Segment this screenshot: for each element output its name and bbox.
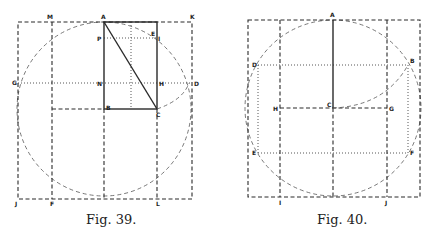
fig39-label-G: G bbox=[12, 79, 17, 86]
fig40-label-F: F bbox=[410, 149, 414, 156]
fig39-label-E: E bbox=[151, 30, 155, 37]
fig39-label-F: F bbox=[50, 200, 54, 207]
fig39-label-K: K bbox=[190, 13, 195, 20]
fig40-label-E: E bbox=[252, 149, 256, 156]
fig40-label-A: A bbox=[330, 11, 335, 18]
fig40-label-D: D bbox=[252, 61, 257, 68]
fig40-label-I: I bbox=[279, 199, 281, 206]
fig39-label-B: B bbox=[106, 104, 111, 111]
fig40-label-G: G bbox=[389, 105, 394, 112]
fig40-arc-CB bbox=[333, 65, 408, 108]
fig39-caption: Fig. 39. bbox=[86, 212, 136, 227]
diagram-canvas: A M K P E I G N H D B C J F L Fig. 39. A… bbox=[0, 0, 426, 234]
fig40-label-C: C bbox=[327, 101, 332, 108]
fig39-label-L: L bbox=[156, 200, 160, 207]
figure-39: A M K P E I G N H D B C J F L Fig. 39. bbox=[12, 13, 199, 227]
fig39-label-C: C bbox=[156, 111, 161, 118]
fig40-label-H: H bbox=[273, 105, 278, 112]
fig40-caption: Fig. 40. bbox=[317, 212, 367, 227]
fig39-label-A: A bbox=[101, 13, 106, 20]
fig39-label-I: I bbox=[158, 35, 160, 42]
fig39-outer-square bbox=[18, 22, 192, 199]
figure-40: A D B H C G E F I J Fig. 40. bbox=[245, 11, 421, 227]
fig39-label-J: J bbox=[14, 200, 17, 208]
fig39-label-H: H bbox=[159, 80, 164, 87]
fig40-label-J: J bbox=[384, 199, 387, 207]
fig39-label-D: D bbox=[194, 80, 199, 87]
fig39-label-P: P bbox=[97, 35, 102, 42]
fig39-diagonal-AC bbox=[104, 22, 157, 109]
fig39-label-N: N bbox=[97, 80, 102, 87]
fig39-label-M: M bbox=[47, 13, 53, 20]
fig40-label-B: B bbox=[410, 57, 415, 64]
